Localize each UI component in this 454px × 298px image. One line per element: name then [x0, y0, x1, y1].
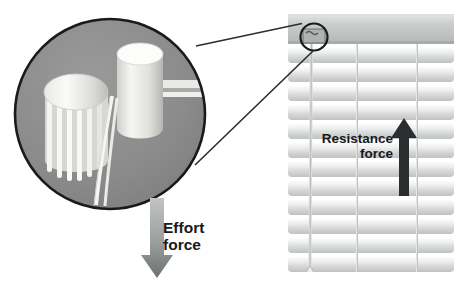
- blind-slat: [288, 162, 454, 177]
- ribbed-spool-drum: [44, 74, 108, 181]
- blind-slat: [288, 86, 454, 101]
- effort-force-label: Effort force: [163, 219, 204, 254]
- pull-cord: [310, 44, 312, 268]
- blind-slat: [288, 181, 454, 196]
- smooth-cylinder-roller: [117, 43, 163, 139]
- resistance-force-label: Resistance force: [316, 131, 393, 161]
- blind-slat: [288, 67, 454, 82]
- blind-slat: [288, 200, 454, 215]
- blind-slat: [288, 238, 454, 253]
- diagram-canvas: Effort force Resistance force: [0, 0, 454, 298]
- blind-slat: [288, 219, 454, 234]
- blind-slat: [288, 105, 454, 120]
- ladder-cord-right: [416, 44, 418, 272]
- callout-connector-top: [196, 24, 302, 47]
- magnified-detail-circle: [15, 19, 230, 209]
